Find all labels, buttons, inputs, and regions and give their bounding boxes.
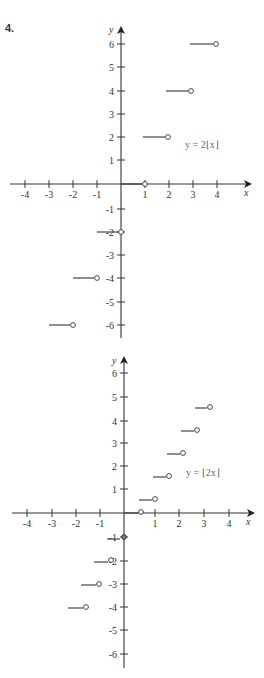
x-tick-label: -2: [72, 518, 80, 529]
equation-label: y = ⌊2x⌋: [186, 467, 220, 478]
open-endpoint: [195, 428, 200, 433]
open-endpoint: [166, 135, 171, 140]
x-tick-label: 3: [202, 518, 207, 529]
x-tick-label: 3: [191, 189, 196, 200]
graph-1: x y -4-3-2-11234 654321-1-2-3-4-5-6 y = …: [10, 24, 250, 338]
y-tick-label: -5: [106, 297, 114, 308]
y-tick-label: -4: [106, 273, 114, 284]
x-tick-label: -1: [93, 189, 101, 200]
x-tick-label: -3: [48, 518, 56, 529]
x-tick-label: -4: [21, 189, 29, 200]
y-axis-label: y: [111, 355, 117, 366]
open-endpoint: [119, 230, 124, 235]
x-tick-label: -4: [23, 518, 31, 529]
open-endpoint: [71, 323, 76, 328]
open-endpoint: [95, 276, 100, 281]
open-endpoint: [109, 558, 114, 563]
open-endpoint: [181, 451, 186, 456]
x-tick-label: -1: [96, 518, 104, 529]
y-tick-label: 1: [109, 155, 114, 166]
open-endpoint: [84, 605, 89, 610]
y-tick-label: -5: [109, 625, 117, 636]
x-tick-label: -3: [45, 189, 53, 200]
open-endpoint: [139, 510, 144, 515]
y-tick-label: 6: [109, 39, 114, 50]
y-tick-label: 3: [112, 438, 117, 449]
x-tick-label: -2: [69, 189, 77, 200]
y-tick-label: -4: [109, 602, 117, 613]
y-tick-label: 2: [112, 461, 117, 472]
y-tick-label: 3: [109, 109, 114, 120]
figure-canvas: x y -4-3-2-11234 654321-1-2-3-4-5-6 y = …: [0, 0, 264, 678]
graph-2: x y -4-3-2-11234 654321-1-2-3-4-5-6: [12, 355, 253, 668]
x-axis-label: x: [243, 187, 249, 198]
y-tick-label: 6: [112, 368, 117, 379]
open-endpoint: [208, 405, 213, 410]
step-segments: [68, 405, 212, 610]
y-tick-label: -3: [106, 250, 114, 261]
open-endpoint: [97, 582, 102, 587]
x-tick-label: 4: [215, 189, 220, 200]
x-axis-label: x: [245, 516, 251, 527]
x-tick-label: 1: [143, 189, 148, 200]
y-tick-label: 4: [109, 86, 114, 97]
y-tick-label: -6: [109, 649, 117, 660]
open-endpoint: [167, 474, 172, 479]
y-tick-label: -1: [109, 532, 117, 543]
y-tick-label: -3: [109, 579, 117, 590]
open-endpoint: [153, 497, 158, 502]
open-endpoint: [214, 42, 219, 47]
equation-label: y = 2⌊x⌋: [185, 139, 219, 150]
closed-endpoint: [122, 535, 127, 540]
y-tick-label: -6: [106, 320, 114, 331]
y-tick-label: 4: [112, 416, 117, 427]
y-tick-label: 2: [109, 132, 114, 143]
x-tick-label: 4: [227, 518, 232, 529]
open-endpoint: [189, 89, 194, 94]
y-tick-label: 5: [112, 392, 117, 403]
x-tick-label: 2: [167, 189, 172, 200]
y-tick-label: 1: [112, 484, 117, 495]
y-tick-label: 5: [109, 62, 114, 73]
y-tick-label: -1: [106, 204, 114, 215]
x-tick-label: 2: [177, 518, 182, 529]
x-tick-label: 1: [153, 518, 158, 529]
x-ticks: -4-3-2-11234: [21, 180, 220, 200]
y-axis-label: y: [108, 24, 114, 35]
x-ticks: -4-3-2-11234: [23, 509, 232, 529]
open-endpoint: [143, 182, 148, 187]
